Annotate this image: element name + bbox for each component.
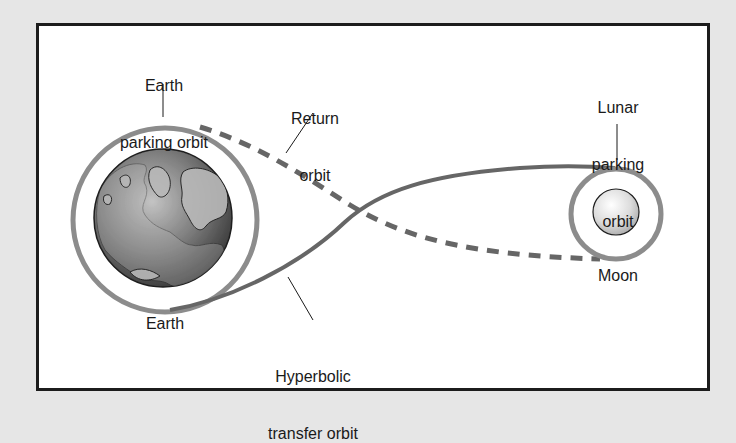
label-line: Hyperbolic (250, 367, 376, 386)
return-orbit-path (200, 127, 600, 259)
label-hyperbolic-transfer-orbit: Hyperbolic transfer orbit (250, 329, 376, 443)
label-line: transfer orbit (250, 424, 376, 443)
label-line: orbit (580, 212, 656, 231)
label-lunar-parking-orbit: Lunar parking orbit (580, 60, 656, 250)
label-return-orbit: Return orbit (280, 71, 350, 204)
label-line: parking (580, 155, 656, 174)
hyperbolic-transfer-orbit-path (170, 166, 615, 310)
label-line: Earth (104, 76, 224, 95)
label-moon: Moon (588, 266, 648, 285)
leader-hyperbolic-transfer (288, 277, 313, 320)
label-earth: Earth (135, 314, 195, 333)
label-line: Return (280, 109, 350, 128)
label-earth-parking-orbit: Earth parking orbit (104, 38, 224, 171)
label-line: parking orbit (104, 133, 224, 152)
label-line: Lunar (580, 98, 656, 117)
label-line: orbit (280, 166, 350, 185)
